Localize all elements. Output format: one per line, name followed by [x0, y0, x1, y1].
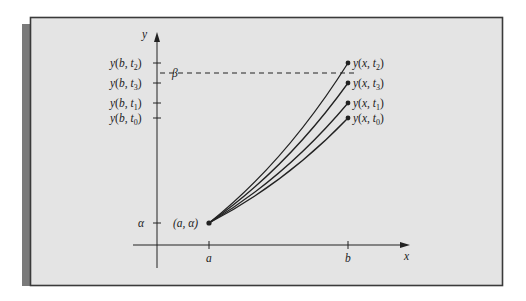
x-tick-label-b: b — [345, 252, 351, 264]
curve-endpoint-t3 — [346, 81, 351, 86]
beta-label: β — [171, 67, 178, 80]
x-axis-label: x — [403, 250, 410, 262]
shooting-method-diagram: y x a b α y(b, t2)y(b, t3)y(b, t1)y(b, t… — [0, 0, 526, 301]
start-point — [206, 220, 211, 225]
x-tick-label-a: a — [206, 252, 212, 264]
start-point-label: (a, α) — [173, 217, 198, 230]
y-axis-label: y — [141, 28, 148, 41]
curve-endpoint-t0 — [346, 116, 351, 121]
panel-shadow — [22, 24, 31, 286]
y-tick-label-alpha: α — [138, 217, 145, 229]
curve-endpoint-t2 — [346, 61, 351, 66]
curve-endpoint-t1 — [346, 101, 351, 106]
